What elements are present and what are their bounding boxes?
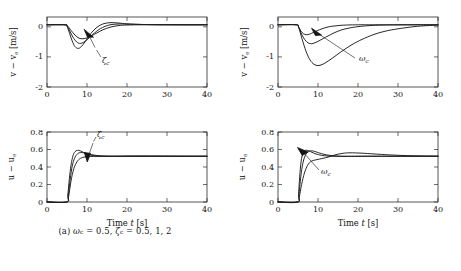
xticks-top-left — [47, 17, 207, 87]
ytick-label: 0.8 — [261, 128, 274, 137]
subplot-bottom-left: 0 0.2 0.4 0.6 0.8 0 10 20 30 40 u − ue T… — [6, 128, 212, 229]
ytick-label: 0.4 — [30, 163, 43, 172]
panel-b-svg: -2 -1 0 0 10 20 30 40 v − ve [m/s] ωc — [231, 0, 461, 240]
xtick-label: 0 — [275, 205, 280, 214]
ytick-label: -1 — [35, 52, 43, 61]
ytick-label: 0 — [269, 22, 274, 31]
curves-top-left — [47, 23, 207, 49]
caption-panel-a: (a) ωc = 0.5, ζc = 0.5, 1, 2 — [0, 226, 230, 236]
subplot-top-right: -2 -1 0 0 10 20 30 40 v − ve [m/s] ωc — [239, 17, 443, 99]
ylabel-v-error: v − ve [m/s] — [239, 27, 250, 77]
annot-zeta-c: ζc — [102, 56, 110, 66]
panel-b: -2 -1 0 0 10 20 30 40 v − ve [m/s] ωc — [231, 0, 461, 240]
annotation-omega-c-bottom-right: ωc — [298, 148, 332, 177]
ytick-label: -1 — [266, 52, 274, 61]
ytick-label: 0 — [269, 198, 274, 207]
xtick-label: 40 — [433, 205, 443, 214]
xtick-label: 10 — [82, 205, 92, 214]
axes-frame-top-right — [278, 17, 438, 87]
curve-omega-c-0-2 — [278, 25, 438, 66]
xtick-label: 30 — [162, 205, 172, 214]
ytick-label: 0.2 — [261, 180, 274, 189]
panel-a-svg: -2 -1 0 0 10 20 30 40 v − ve [m/s] ζc — [0, 0, 230, 240]
annotation-zeta-c-top-left: ζc — [84, 29, 110, 65]
xtick-label: 30 — [393, 205, 403, 214]
curve-omega-c-1 — [278, 150, 438, 202]
xtick-label: 40 — [433, 90, 443, 99]
curves-bottom-right — [278, 150, 438, 202]
curve-zeta-c-1 — [47, 153, 207, 203]
curve-zeta-c-1 — [47, 24, 207, 43]
xtick-label: 40 — [202, 205, 212, 214]
xtick-label: 20 — [122, 205, 132, 214]
xtick-label: 20 — [353, 90, 363, 99]
xlabel-time: Time t [s] — [338, 218, 379, 228]
xtick-label: 30 — [162, 90, 172, 99]
ytick-label: 0.4 — [261, 163, 274, 172]
annot-omega-c: ωc — [359, 54, 370, 64]
xtick-label: 0 — [44, 205, 49, 214]
caption-a-text: (a) ωc = 0.5, ζc = 0.5, 1, 2 — [58, 226, 171, 236]
xticks-top-right — [278, 17, 438, 87]
xtick-label: 0 — [275, 90, 280, 99]
panel-a: -2 -1 0 0 10 20 30 40 v − ve [m/s] ζc — [0, 0, 230, 240]
ytick-label: 0.6 — [30, 145, 43, 154]
ytick-label: 0.6 — [261, 145, 274, 154]
curves-bottom-left — [47, 150, 207, 202]
ytick-label: 0 — [38, 22, 43, 31]
xtick-label: 40 — [202, 90, 212, 99]
annotation-omega-c-top-right: ωc — [312, 28, 370, 63]
ylabel-u-error: u − ue — [237, 153, 248, 180]
xtick-label: 10 — [313, 205, 323, 214]
ytick-label: 0 — [38, 198, 43, 207]
axes-frame-top-left — [47, 17, 207, 87]
annotation-zeta-c-bottom-left: ζc — [84, 130, 105, 162]
subplot-bottom-right: 0 0.2 0.4 0.6 0.8 0 10 20 30 40 u − ue T… — [237, 128, 443, 229]
yticks-top-left — [47, 27, 207, 87]
curve-omega-c-0-2 — [278, 153, 438, 203]
annot-omega-c: ωc — [321, 167, 332, 177]
xtick-label: 10 — [82, 90, 92, 99]
ytick-label: 0.2 — [30, 180, 43, 189]
ylabel-v-error: v − ve [m/s] — [8, 27, 19, 77]
figure-container: -2 -1 0 0 10 20 30 40 v − ve [m/s] ζc — [0, 0, 461, 271]
xtick-label: 20 — [122, 90, 132, 99]
subplot-top-left: -2 -1 0 0 10 20 30 40 v − ve [m/s] ζc — [8, 17, 212, 99]
ytick-label: -2 — [266, 83, 274, 92]
ylabel-u-error: u − ue — [6, 153, 17, 180]
xtick-label: 10 — [313, 90, 323, 99]
curves-top-right — [278, 25, 438, 66]
xtick-label: 0 — [44, 90, 49, 99]
ytick-label: 0.8 — [30, 128, 43, 137]
xtick-label: 30 — [393, 90, 403, 99]
annot-zeta-c: ζc — [97, 130, 105, 140]
ytick-label: -2 — [35, 83, 43, 92]
curve-zeta-c-0-5 — [47, 23, 207, 49]
curve-omega-c-1 — [278, 25, 438, 35]
xtick-label: 20 — [353, 205, 363, 214]
